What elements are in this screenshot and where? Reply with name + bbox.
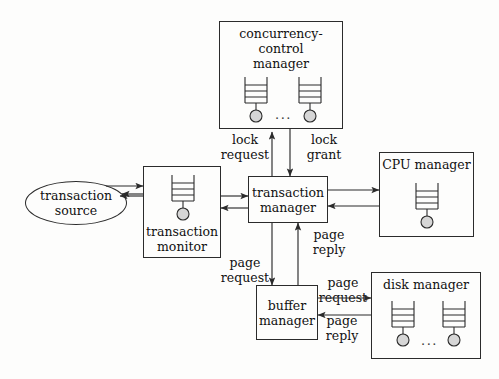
node-label-transaction-manager: transaction manager: [249, 185, 327, 215]
node-label-concurrency-control-manager: concurrency-control manager: [220, 26, 342, 71]
queue-glyph-monitor-1: [166, 173, 200, 221]
queue-glyph-disk-1: [386, 299, 420, 347]
queue-ellipsis-disk: ...: [421, 336, 438, 346]
node-buffer-manager[interactable]: buffer manager: [256, 285, 318, 340]
edge-label-page-reply-disk: page reply: [316, 313, 368, 343]
node-label-disk-manager: disk manager: [372, 277, 480, 292]
edge-label-page-request-buffer: page request: [214, 255, 276, 285]
node-concurrency-control-manager[interactable]: concurrency-control manager ...: [219, 21, 343, 129]
node-transaction-monitor[interactable]: transaction monitor: [143, 166, 221, 258]
edge-label-lock-request: lock request: [214, 132, 276, 162]
diagram-canvas: concurrency-control manager ... transact…: [0, 0, 499, 379]
queue-glyph-cpu-1: [410, 181, 444, 229]
node-cpu-manager[interactable]: CPU manager: [379, 152, 474, 237]
node-label-transaction-monitor: transaction monitor: [144, 224, 220, 254]
edge-label-page-request-disk: page request: [312, 275, 374, 305]
node-transaction-source[interactable]: transaction source: [25, 181, 127, 225]
queue-glyph-ccm-1: [239, 75, 273, 123]
queue-ellipsis-ccm: ...: [275, 110, 292, 120]
node-label-transaction-source: transaction source: [26, 188, 126, 218]
queue-glyph-ccm-2: [293, 75, 327, 123]
node-transaction-manager[interactable]: transaction manager: [248, 176, 328, 223]
edge-label-page-reply-manager: page reply: [304, 227, 354, 257]
node-label-cpu-manager: CPU manager: [380, 157, 473, 172]
node-disk-manager[interactable]: disk manager ...: [371, 272, 481, 359]
queue-glyph-disk-2: [437, 299, 471, 347]
node-label-buffer-manager: buffer manager: [257, 298, 317, 328]
edge-label-lock-grant: lock grant: [296, 132, 352, 162]
